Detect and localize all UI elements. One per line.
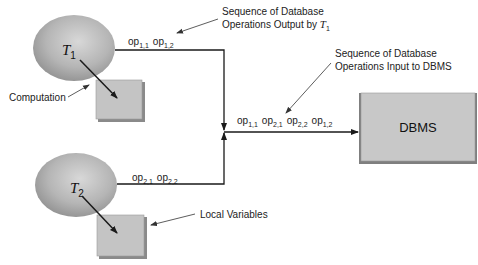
annotation-computation-pointer bbox=[68, 85, 89, 97]
transaction-t1-ellipse bbox=[33, 15, 115, 81]
transaction-diagram: T1 op1,1op1,2 T2 op2,1op2,2 op1,1op2,1op… bbox=[0, 0, 478, 265]
local-store-t1 bbox=[96, 80, 145, 122]
annotation-input-dbms-pointer bbox=[286, 63, 331, 113]
merged-ops-label: op1,1op2,1op2,2op1,2 bbox=[237, 115, 333, 128]
annotation-output-t1: Sequence of Database Operations Output b… bbox=[177, 6, 330, 33]
annotation-input-dbms-line2: Operations Input to DBMS bbox=[335, 61, 452, 72]
t2-ops-label: op2,1op2,2 bbox=[132, 172, 178, 185]
annotation-output-t1-pointer bbox=[177, 19, 218, 33]
annotation-input-dbms-line1: Sequence of Database bbox=[335, 48, 437, 59]
annotation-output-t1-line1: Sequence of Database bbox=[222, 6, 324, 17]
annotation-output-t1-line2: Operations Output by T1 bbox=[222, 18, 330, 32]
transaction-t2: T2 bbox=[35, 153, 147, 259]
annotation-local-variables-pointer bbox=[151, 214, 195, 225]
transaction-t1: T1 bbox=[33, 15, 145, 122]
annotation-local-variables: Local Variables bbox=[151, 209, 268, 225]
local-store-t2 bbox=[97, 215, 147, 259]
dbms-label: DBMS bbox=[399, 120, 437, 135]
annotation-local-variables-label: Local Variables bbox=[200, 209, 268, 220]
annotation-computation: Computation bbox=[9, 85, 89, 103]
t1-ops-label: op1,1op1,2 bbox=[128, 36, 174, 49]
annotation-computation-label: Computation bbox=[9, 92, 66, 103]
dbms-box: DBMS bbox=[359, 93, 477, 164]
